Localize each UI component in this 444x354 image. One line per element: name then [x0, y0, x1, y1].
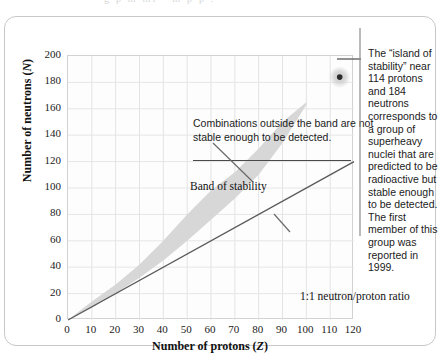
annotation-outside-band-rule: [193, 160, 351, 161]
island-of-stability-marker: [329, 66, 351, 88]
annotation-outside-band: Combinations outside the band are not st…: [193, 117, 383, 144]
y-tick-40: 40: [31, 259, 61, 271]
y-tick-100: 100: [31, 180, 61, 192]
y-tick-160: 160: [31, 101, 61, 113]
x-axis-title: Number of protons (Z): [67, 339, 353, 354]
annotation-ratio: 1:1 neutron/proton ratio: [300, 290, 410, 302]
annotation-island-of-stability: The “island of stability” near 114 proto…: [368, 47, 442, 274]
plot-area: Combinations outside the band are not st…: [67, 55, 353, 319]
figure-card: Combinations outside the band are not st…: [4, 16, 436, 346]
y-tick-60: 60: [31, 233, 61, 245]
y-tick-120: 120: [31, 154, 61, 166]
y-tick-80: 80: [31, 206, 61, 218]
y-tick-180: 180: [31, 74, 61, 86]
y-tick-200: 200: [31, 48, 61, 60]
y-tick-140: 140: [31, 127, 61, 139]
y-axis-title: Number of neutrons (N): [20, 21, 35, 221]
cut-off-header-text: g p m mi - m p p .: [0, 0, 444, 12]
cut-off-header-glyphs: g p m mi - m p p .: [104, 0, 216, 4]
x-tick-120: 120: [338, 323, 368, 335]
annotation-band-of-stability: Band of stability: [190, 180, 267, 192]
y-tick-20: 20: [31, 286, 61, 298]
